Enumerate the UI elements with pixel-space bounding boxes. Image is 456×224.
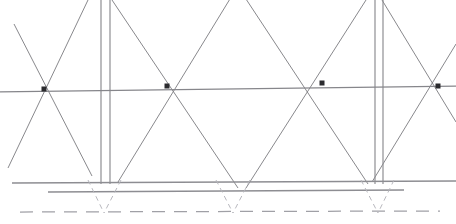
node-1-marker [42, 87, 47, 92]
technical-drawing-canvas [0, 0, 456, 224]
node-4-marker [436, 84, 441, 89]
node-2-marker [165, 84, 170, 89]
truss-lattice-drawing [0, 0, 456, 224]
node-3-marker [320, 81, 325, 86]
